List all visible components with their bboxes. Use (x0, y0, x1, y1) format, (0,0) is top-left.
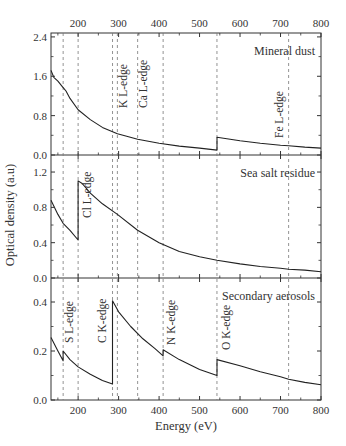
x-tick-label-bottom: 400 (151, 404, 168, 416)
curve-secondary-aerosols (51, 301, 321, 385)
x-tick-label-top: 800 (313, 17, 330, 29)
x-tick-label-top: 300 (110, 17, 127, 29)
x-tick-label-top: 600 (232, 17, 249, 29)
edge-label: O K-edge (220, 305, 233, 350)
x-tick-label-bottom: 500 (191, 404, 208, 416)
x-tick-label-bottom: 700 (272, 404, 289, 416)
x-tick-label-bottom: 600 (232, 404, 249, 416)
edge-label: N K-edge (165, 300, 178, 345)
chart-figure: 2002003003004004005005006006007007008008… (0, 0, 346, 446)
y-axis-label: Optical density (a.u) (3, 164, 17, 266)
y-tick-label: 0.0 (33, 149, 47, 161)
x-tick-label-top: 700 (272, 17, 289, 29)
edge-label: Cl L-edge (81, 172, 94, 218)
edge-label: C K-edge (96, 299, 109, 343)
y-tick-label: 1.2 (33, 166, 47, 178)
panel-title: Mineral dust (254, 44, 316, 58)
x-tick-label-top: 400 (151, 17, 168, 29)
x-tick-label-top: 200 (70, 17, 87, 29)
y-tick-label: 0.4 (33, 237, 47, 249)
panel-title: Sea salt residue (240, 166, 315, 180)
edge-label: K L-edge (117, 64, 130, 108)
y-tick-label: 2.4 (33, 31, 47, 43)
y-tick-label: 1.6 (33, 70, 47, 82)
edge-label: S L-edge (63, 301, 76, 343)
x-tick-label-bottom: 800 (313, 404, 330, 416)
edge-annotations: K L-edgeCa L-edgeFe L-edgeCl L-edgeS L-e… (63, 60, 286, 350)
edge-label: Ca L-edge (137, 60, 150, 108)
edge-label: Fe L-edge (273, 91, 286, 138)
y-tick-label: 0.0 (33, 272, 47, 284)
y-tick-label: 0.8 (33, 201, 47, 213)
x-tick-label-bottom: 200 (70, 404, 87, 416)
panel-title: Secondary aerosols (222, 289, 315, 303)
y-tick-label: 0.0 (33, 394, 47, 406)
x-tick-label-bottom: 300 (110, 404, 127, 416)
y-tick-label: 0.8 (33, 110, 47, 122)
x-axis-label: Energy (eV) (155, 419, 217, 433)
y-tick-label: 0.4 (33, 296, 47, 308)
x-tick-label-top: 500 (191, 17, 208, 29)
y-tick-label: 0.2 (33, 345, 47, 357)
